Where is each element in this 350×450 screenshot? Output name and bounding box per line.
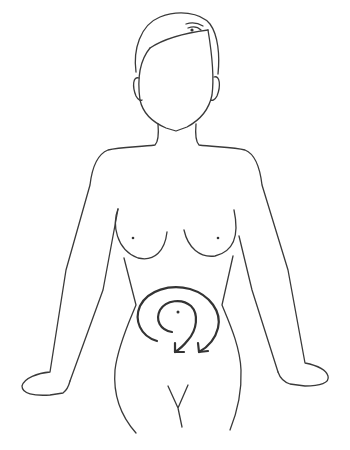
left-breast [115,209,167,259]
right-breast [184,210,236,256]
illustration-canvas [0,0,350,450]
hair-outline [135,13,218,74]
hair-fringe [150,30,208,48]
left-nipple [132,237,135,240]
torso-sides [115,256,241,433]
groin-lines [168,385,188,427]
face-outline [139,30,213,131]
outer-arc [138,287,219,352]
chest [115,209,235,259]
right-nipple [217,237,220,240]
right-arm-inner [239,236,278,372]
left-arm-inner [70,209,118,381]
head [134,13,220,131]
navel [177,311,180,314]
left-shoulder-arm-outer [22,124,158,395]
right-shoulder-arm-outer [196,124,329,386]
torso-illustration [0,0,350,450]
left-ear [134,78,142,101]
right-waist-hip [222,256,241,430]
inner-spiral [158,301,196,352]
clockwise-arrow-icon [138,287,219,352]
body-outline [22,124,328,395]
hair-highlight-dot [190,28,193,31]
hair-highlight [186,23,203,30]
left-waist-hip [115,258,136,433]
